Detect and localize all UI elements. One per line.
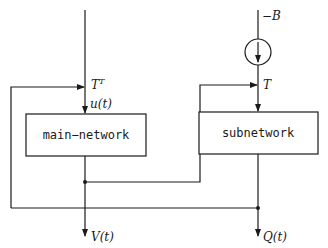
v-t-label: V(t) [91, 230, 114, 244]
q-t-label: Q(t) [263, 230, 287, 244]
junction-dot-sub [256, 206, 260, 210]
neg-b-label: −B [262, 9, 281, 23]
block-diagram: main−network subnetwork −B TT u(t) T V(t… [0, 0, 328, 248]
subnetwork-label: subnetwork [222, 126, 295, 140]
t-transpose-label: TT [91, 77, 105, 92]
u-t-label: u(t) [90, 97, 112, 111]
main-network-label: main−network [43, 128, 130, 142]
t-label: T [263, 78, 272, 92]
